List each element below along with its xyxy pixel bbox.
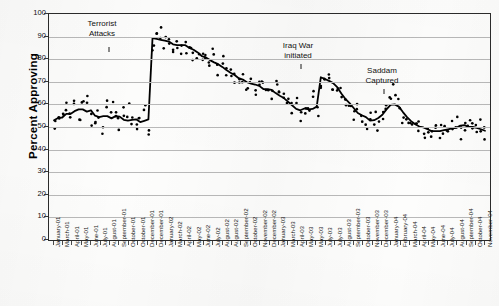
data-point bbox=[401, 122, 404, 125]
x-axis-tick-label: September-03 bbox=[355, 208, 361, 247]
data-point bbox=[250, 78, 253, 81]
data-point bbox=[369, 111, 372, 114]
x-axis-tick-label: March-01 bbox=[64, 221, 70, 247]
data-point bbox=[143, 109, 146, 112]
x-axis-tick-label: April-01 bbox=[74, 226, 80, 247]
data-point bbox=[417, 130, 420, 133]
data-point bbox=[254, 89, 257, 92]
data-point bbox=[168, 38, 171, 41]
data-point bbox=[361, 120, 364, 123]
data-point bbox=[287, 98, 290, 101]
x-axis-tick-label: July-02 bbox=[215, 227, 221, 247]
data-point bbox=[222, 55, 225, 58]
data-point bbox=[122, 106, 125, 109]
data-point bbox=[137, 117, 140, 120]
x-axis-tick-label: March-03 bbox=[290, 221, 296, 247]
x-axis-tick-label: November-04 bbox=[487, 210, 493, 247]
x-axis-tick-label: January-03 bbox=[280, 217, 286, 248]
data-point bbox=[101, 132, 104, 135]
y-axis-tick-label: 50 bbox=[12, 122, 46, 130]
gridline bbox=[49, 104, 490, 105]
data-point bbox=[464, 122, 467, 125]
data-point bbox=[317, 115, 320, 118]
x-axis-tick-label: September-04 bbox=[468, 208, 474, 247]
annotation-saddam-captured: Saddam Captured bbox=[351, 66, 413, 85]
y-axis-tick-label: 100 bbox=[12, 9, 46, 17]
data-point bbox=[312, 90, 315, 93]
x-axis-tick-label: September-01 bbox=[121, 208, 127, 247]
x-axis-tick-label: November-02 bbox=[262, 210, 268, 247]
data-point bbox=[175, 40, 178, 43]
data-point bbox=[300, 111, 303, 114]
data-point bbox=[352, 118, 355, 121]
x-axis-tick-label: May-01 bbox=[83, 227, 89, 247]
y-axis-tick-label: 60 bbox=[12, 99, 46, 107]
data-point bbox=[374, 111, 377, 114]
data-point bbox=[65, 109, 68, 112]
y-axis-tick-label: 90 bbox=[12, 32, 46, 40]
data-point bbox=[328, 77, 331, 80]
data-point bbox=[442, 132, 445, 135]
data-point bbox=[394, 94, 397, 97]
gridline bbox=[49, 82, 490, 83]
x-axis-tick-label: October-01 bbox=[130, 217, 136, 247]
data-point bbox=[211, 48, 214, 51]
gridline bbox=[49, 127, 490, 128]
data-point bbox=[136, 123, 139, 126]
data-point bbox=[208, 64, 211, 67]
data-point bbox=[73, 100, 76, 103]
x-axis-tick-label: July-03 bbox=[327, 227, 333, 247]
annotation-line-2: initiated bbox=[268, 51, 328, 61]
y-axis-tick-label: 30 bbox=[12, 167, 46, 175]
x-axis-tick-label: December-02 bbox=[271, 210, 277, 247]
data-point bbox=[69, 116, 72, 119]
data-point bbox=[304, 112, 307, 115]
data-point bbox=[483, 138, 486, 141]
data-point bbox=[339, 87, 342, 90]
data-point bbox=[172, 51, 175, 54]
x-axis-tick-label: October-02 bbox=[252, 217, 258, 247]
data-point bbox=[180, 53, 183, 56]
x-axis-tick-label: December-03 bbox=[383, 210, 389, 247]
y-axis-tick-label: 10 bbox=[12, 212, 46, 220]
data-point bbox=[105, 106, 108, 109]
data-point bbox=[417, 120, 420, 123]
x-axis-tick-label: March-04 bbox=[412, 221, 418, 247]
x-axis-tick-label: May-03 bbox=[318, 227, 324, 247]
data-point bbox=[225, 74, 228, 77]
x-axis-tick-label: October-01 bbox=[140, 217, 146, 247]
data-point bbox=[382, 118, 385, 121]
data-point bbox=[366, 128, 369, 131]
data-point bbox=[283, 92, 286, 95]
annotation-line-1: Saddam bbox=[351, 66, 413, 76]
annotation-terrorist-attacks: Terrorist Attacks bbox=[72, 19, 132, 38]
data-point bbox=[299, 120, 302, 123]
data-point bbox=[456, 116, 459, 119]
x-axis-tick-label: March-02 bbox=[177, 221, 183, 247]
data-point bbox=[79, 119, 82, 122]
x-axis-tick-label: May-03 bbox=[308, 227, 314, 247]
data-point bbox=[162, 47, 165, 50]
data-point bbox=[364, 123, 367, 126]
data-point bbox=[378, 120, 381, 123]
data-point bbox=[131, 116, 134, 119]
x-axis-tick-label: July-04 bbox=[449, 227, 455, 247]
annotation-line-1: Terrorist bbox=[72, 19, 132, 29]
data-point bbox=[204, 54, 207, 57]
x-axis-tick-label: August-02 bbox=[233, 219, 239, 247]
data-point bbox=[147, 133, 150, 136]
y-axis-tick-label: 40 bbox=[12, 145, 46, 153]
data-point bbox=[290, 112, 293, 115]
data-point bbox=[276, 83, 279, 86]
x-axis-tick-label: August-02 bbox=[224, 219, 230, 247]
data-point bbox=[208, 61, 211, 64]
data-point bbox=[96, 109, 99, 112]
data-point bbox=[136, 128, 139, 131]
data-point bbox=[115, 111, 118, 114]
data-point bbox=[255, 93, 258, 96]
data-point bbox=[110, 111, 113, 114]
data-point bbox=[106, 99, 109, 102]
data-point bbox=[475, 124, 478, 127]
x-axis-tick-label: November-03 bbox=[374, 210, 380, 247]
data-point bbox=[430, 135, 433, 138]
